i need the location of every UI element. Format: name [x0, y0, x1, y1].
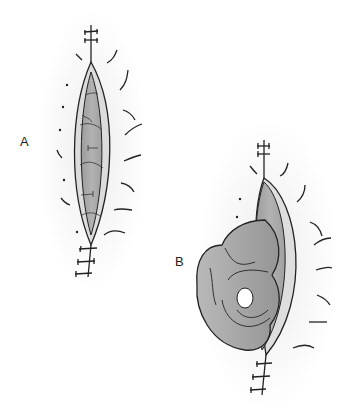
panel-a	[37, 10, 147, 290]
panel-b	[197, 120, 338, 410]
panel-label-a: A	[20, 134, 29, 149]
surgical-illustration	[0, 0, 354, 419]
panel-label-b: B	[175, 254, 184, 269]
